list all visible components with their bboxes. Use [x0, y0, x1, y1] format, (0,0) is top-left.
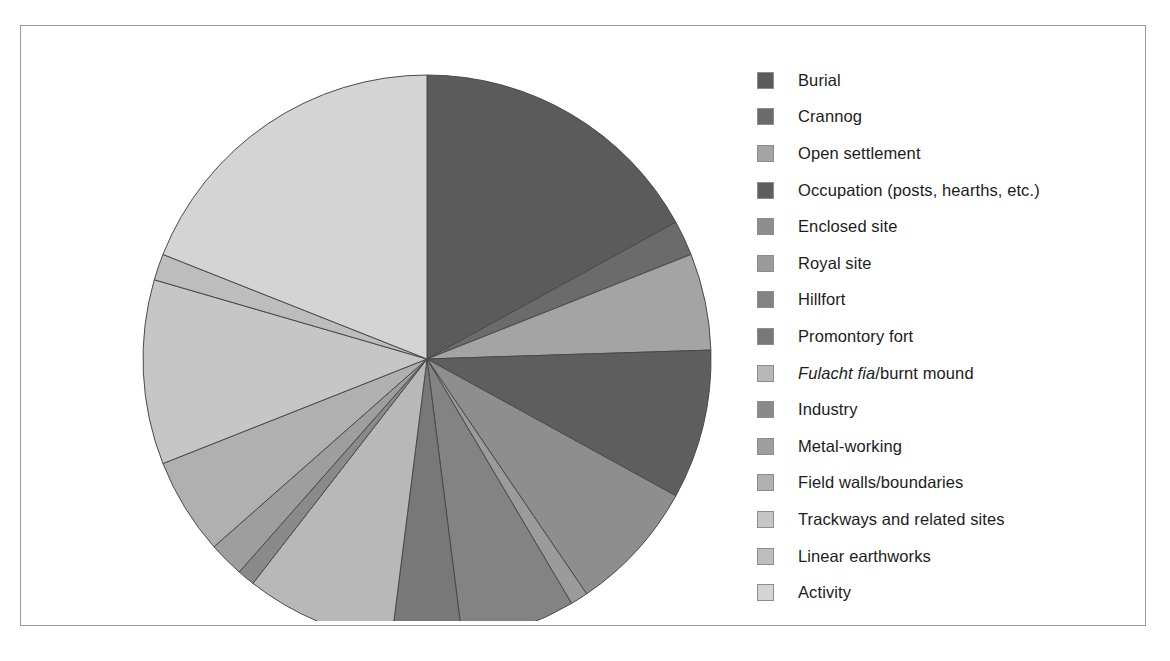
legend-item-label: Burial: [798, 71, 841, 90]
pie-chart-figure: BurialCrannogOpen settlementOccupation (…: [0, 0, 1170, 661]
legend-item: Industry: [757, 391, 1157, 428]
pie-slice-group: [143, 75, 711, 621]
legend-item: Activity: [757, 574, 1157, 611]
legend-item: Metal-working: [757, 428, 1157, 465]
legend-swatch-icon: [757, 548, 774, 565]
legend-item: Royal site: [757, 245, 1157, 282]
legend-item-label: Activity: [798, 583, 851, 602]
legend-swatch-icon: [757, 145, 774, 162]
legend-swatch-icon: [757, 328, 774, 345]
legend-item-label: Field walls/boundaries: [798, 473, 963, 492]
pie-chart-svg: [121, 49, 713, 621]
legend-item: Promontory fort: [757, 318, 1157, 355]
legend-item-label: Industry: [798, 400, 858, 419]
legend-item-label: Hillfort: [798, 290, 846, 309]
legend-item: Fulacht fia/burnt mound: [757, 355, 1157, 392]
legend-item: Burial: [757, 62, 1157, 99]
legend-item-label: Metal-working: [798, 437, 902, 456]
legend-item-label: Enclosed site: [798, 217, 897, 236]
legend-item-label: Royal site: [798, 254, 871, 273]
legend-item-label: Fulacht fia/burnt mound: [798, 364, 974, 383]
legend-swatch-icon: [757, 474, 774, 491]
legend-item: Hillfort: [757, 282, 1157, 319]
legend-swatch-icon: [757, 108, 774, 125]
legend-swatch-icon: [757, 182, 774, 199]
legend-swatch-icon: [757, 401, 774, 418]
legend-swatch-icon: [757, 291, 774, 308]
legend-item: Open settlement: [757, 135, 1157, 172]
legend-item-label: Trackways and related sites: [798, 510, 1005, 529]
legend-item: Trackways and related sites: [757, 501, 1157, 538]
legend-item: Enclosed site: [757, 208, 1157, 245]
legend-swatch-icon: [757, 218, 774, 235]
legend-swatch-icon: [757, 584, 774, 601]
legend-item: Linear earthworks: [757, 538, 1157, 575]
legend-swatch-icon: [757, 365, 774, 382]
pie-chart-area: [121, 49, 713, 621]
legend-item-label: Promontory fort: [798, 327, 913, 346]
legend-item-label: Linear earthworks: [798, 547, 931, 566]
legend-label-italic-part: Fulacht fia: [798, 364, 875, 382]
legend-item-label: Occupation (posts, hearths, etc.): [798, 181, 1040, 200]
legend-item-label: Open settlement: [798, 144, 921, 163]
legend-swatch-icon: [757, 255, 774, 272]
legend-item: Field walls/boundaries: [757, 465, 1157, 502]
figure-frame: BurialCrannogOpen settlementOccupation (…: [20, 25, 1146, 626]
legend-swatch-icon: [757, 511, 774, 528]
legend-item-label: Crannog: [798, 107, 862, 126]
legend-item: Crannog: [757, 99, 1157, 136]
legend: BurialCrannogOpen settlementOccupation (…: [757, 62, 1157, 611]
legend-item: Occupation (posts, hearths, etc.): [757, 172, 1157, 209]
legend-swatch-icon: [757, 438, 774, 455]
legend-swatch-icon: [757, 72, 774, 89]
